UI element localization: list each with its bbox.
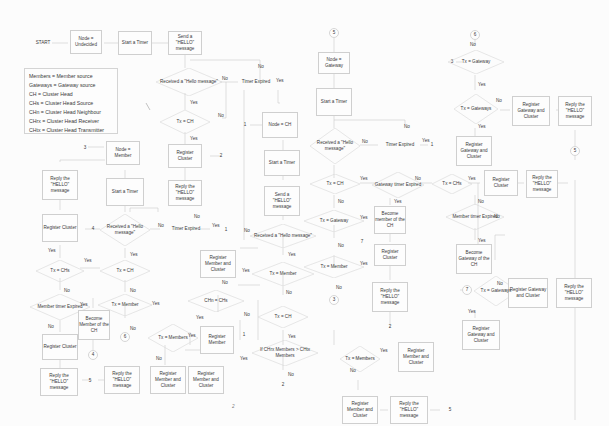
connector-5: 5 (446, 405, 454, 415)
edge-label-yes: Yes (152, 301, 160, 306)
connector-6: 6 (120, 332, 130, 342)
connector-6: 6 (470, 30, 480, 40)
timer-expired-decision: Timer Expired (236, 76, 276, 88)
legend-item: CHs = Cluster Head Source (29, 99, 113, 108)
edge-label-no: No (222, 76, 228, 81)
edge-label-no: No (338, 199, 344, 204)
connector-5: 5 (329, 28, 339, 38)
register-gateway-cluster-box: Register Gateway and Cluster (462, 320, 500, 350)
edge-label-no: No (158, 223, 164, 228)
edge-label-no: No (496, 98, 502, 103)
reply-hello-box: Reply the "HELLO" message (168, 180, 202, 206)
reply-hello-6-box: Reply the "HELLO" message (558, 96, 592, 126)
tx-ch-decision: Tx = CH (160, 110, 210, 134)
edge-label-yes: Yes (84, 258, 92, 263)
tx-gateway-6-decision: Tx = Gateway (448, 50, 504, 74)
register-member-cluster-gateway-box: Register Member and Cluster (342, 396, 378, 424)
reply-hello-member-box: Reply the "HELLO" message (40, 368, 78, 396)
edge-label-yes: Yes (276, 78, 284, 83)
received-hello-decision: Received a "Hello message" (156, 68, 222, 96)
edge-label-yes: Yes (212, 223, 220, 228)
legend-item: CHrx = Cluster Head Receiver (29, 117, 113, 126)
tx-chs-member-decision: Tx = CHs (36, 260, 84, 282)
tx-member-gateway-decision: Tx = Member (304, 256, 364, 278)
tx-members-gateway-decision: Tx = Members (340, 346, 380, 372)
register-cluster-box: Register Cluster (168, 144, 202, 168)
connector-4: 4 (88, 350, 98, 360)
edge-label-no: No (478, 199, 484, 204)
edge-label-yes: Yes (130, 252, 138, 257)
edge-label-yes: Yes (242, 268, 250, 273)
register-member-box: Register Member (200, 326, 234, 354)
start-timer-member-box: Start a Timer (106, 178, 144, 206)
received-hello-member-decision: Received a "Hello message" (100, 214, 150, 246)
edge-label-no: No (288, 372, 294, 377)
legend-box: Members = Member source Gateways = Gatew… (24, 68, 118, 134)
edge-label-yes: Yes (240, 356, 248, 361)
edge-label-no: No (218, 113, 224, 118)
connector-3: 3 (80, 143, 90, 153)
reply-hello-gateway-box: Reply the "HELLO" message (526, 170, 558, 198)
edge-label-no: No (244, 312, 250, 317)
edge-label-no: No (415, 176, 421, 181)
edge-label-yes: Yes (196, 315, 204, 320)
timer-expired-gateway-decision: Timer Expired (380, 140, 420, 150)
edge-label-yes: Yes (468, 309, 476, 314)
edge-label-yes: Yes (478, 124, 486, 129)
legend-item: CHn = Cluster Head Neighbour (29, 108, 113, 117)
send-hello-ch-box: Send a "HELLO" message (264, 186, 300, 216)
node-gateway-box: Node = Gateway (318, 52, 350, 74)
register-cluster-gateway-box: Register Cluster (374, 244, 406, 266)
tx-chs-gateway-decision: Tx = CHs (432, 174, 472, 194)
node-undecided-box: Node = Undecided (70, 30, 102, 54)
edge-label-yes: Yes (478, 82, 486, 87)
start-timer-box: Start a Timer (118, 31, 152, 55)
start-terminal: START (32, 38, 54, 48)
edge-label-no: No (194, 214, 200, 219)
register-gateway-cluster-box: Register Gateway and Cluster (508, 278, 548, 308)
edge-label-no: No (350, 368, 356, 373)
register-cluster-member-box: Register Cluster (42, 214, 78, 242)
edge-label-no: No (222, 280, 228, 285)
become-gateway-box: Become Gateway of the CH (456, 244, 492, 274)
edge-label-no: No (130, 288, 136, 293)
member-timer-expired-gateway-decision: Member timer Expired (446, 204, 504, 230)
connector-5: 5 (86, 376, 94, 386)
register-gateway-cluster-box: Register Gateway and Cluster (456, 136, 492, 166)
edge-label-no: No (64, 288, 70, 293)
edge-label-yes: Yes (394, 199, 402, 204)
connector-3: 3 (329, 295, 339, 305)
register-member-cluster-box: Register Member and Cluster (150, 366, 186, 394)
edge-label-no: No (48, 324, 54, 329)
tx-ch-gateway-decision: Tx = CH (310, 174, 360, 194)
reply-hello-box: Reply the "HELLO" message (104, 366, 140, 394)
connector-1: 1 (222, 225, 230, 235)
connector-2: 2 (278, 380, 288, 390)
received-hello-gateway-decision: Received a "Hello message" (310, 128, 360, 164)
edge-label-yes: Yes (188, 333, 196, 338)
legend-item: CH = Cluster Head (29, 90, 113, 99)
edge-label-yes: Yes (288, 334, 296, 339)
edge-label-no: No (156, 356, 162, 361)
reply-hello-gateway-box: Reply the "HELLO" message (390, 396, 428, 424)
start-timer-gateway-box: Start a Timer (316, 88, 352, 116)
connector-1: 1 (240, 120, 250, 130)
register-cluster-member-box: Register Cluster (42, 334, 78, 360)
legend-item: CHtx = Cluster Head Transmitter (29, 126, 113, 135)
connector-2: 2 (385, 322, 395, 332)
edge-label-no: No (286, 290, 292, 295)
edge-label-yes: Yes (478, 238, 486, 243)
start-timer-ch-box: Start a Timer (264, 150, 300, 176)
edge-label-no: No (470, 42, 476, 47)
send-hello-box: Send a "HELLO" message (168, 31, 202, 55)
connector-1: 1 (241, 330, 247, 340)
register-member-cluster-gateway-box: Register Member and Cluster (398, 342, 434, 372)
register-cluster-gateway-box: Register Cluster (484, 170, 518, 196)
legend-item: Gateways = Gateway source (29, 81, 113, 90)
reply-hello-gateway-box: Reply the "HELLO" message (372, 282, 408, 312)
timer-expired-member-decision: Timer Expired (166, 224, 206, 234)
legend-item: Members = Member source (29, 72, 113, 81)
edge-label-yes: Yes (360, 261, 368, 266)
node-ch-box: Node = CH (262, 112, 298, 138)
reply-hello-7-box: Reply the "HELLO" message (556, 278, 592, 308)
